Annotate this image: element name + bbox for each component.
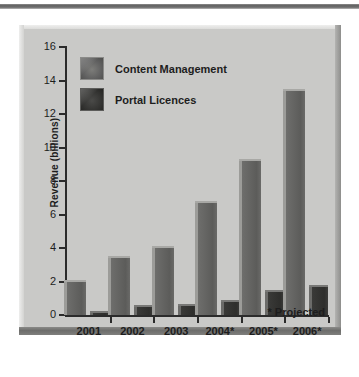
y-tick-label: 6 <box>32 208 56 220</box>
chart-legend: Content Management Portal Licences <box>80 57 227 119</box>
y-tick-label: 2 <box>32 275 56 287</box>
y-tick-label: 0 <box>32 308 56 320</box>
y-tick-label: 12 <box>32 107 56 119</box>
bar-content-management <box>64 280 86 315</box>
x-tick-mark <box>153 317 155 323</box>
legend-label-portal-licences: Portal Licences <box>115 94 196 106</box>
y-tick-label: 8 <box>32 174 56 186</box>
bar-content-management <box>108 256 130 315</box>
x-tick-mark <box>328 317 330 323</box>
legend-label-content-management: Content Management <box>115 63 227 75</box>
bar-content-management <box>195 201 217 315</box>
x-tick-mark <box>197 317 199 323</box>
projected-footnote: * Projected <box>268 306 325 318</box>
bar-portal-licences <box>134 305 153 315</box>
bar-content-management <box>239 159 261 315</box>
x-tick-label: 2006* <box>280 325 334 337</box>
panel-bevel-right-edge <box>335 25 341 335</box>
bar-content-management <box>283 89 305 315</box>
x-tick-mark <box>110 317 112 323</box>
plot-area: Revenue (billions) 0246810121416 2001200… <box>24 29 335 327</box>
legend-item: Content Management <box>80 57 227 80</box>
y-tick-label: 10 <box>32 141 56 153</box>
legend-swatch-content-management <box>80 57 104 80</box>
bar-portal-licences <box>221 300 240 315</box>
bar-content-management <box>152 246 174 315</box>
top-divider-rule <box>0 4 359 9</box>
x-tick-mark <box>241 317 243 323</box>
y-tick-label: 16 <box>32 40 56 52</box>
bar-portal-licences <box>90 311 109 315</box>
y-axis-line <box>65 46 67 316</box>
bar-portal-licences <box>178 304 197 315</box>
legend-swatch-portal-licences <box>80 88 104 111</box>
chart-panel: Revenue (billions) 0246810121416 2001200… <box>19 25 341 335</box>
legend-item: Portal Licences <box>80 88 227 111</box>
y-tick-label: 14 <box>32 74 56 86</box>
y-tick-label: 4 <box>32 241 56 253</box>
